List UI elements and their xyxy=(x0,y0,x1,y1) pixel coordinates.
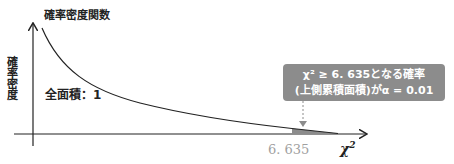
callout-line-1: χ² ≥ 6. 635となる確率 xyxy=(283,67,445,83)
total-area-label: 全面積：1 xyxy=(45,85,101,102)
critical-value-label: 6. 635 xyxy=(268,142,309,157)
x-axis-label-exp: 2 xyxy=(349,140,355,150)
alpha-callout: χ² ≥ 6. 635となる確率 (上側累積面積)がα = 0.01 xyxy=(283,64,445,101)
x-axis-label: χ2 xyxy=(340,140,355,157)
callout-line-2: (上側累積面積)がα = 0.01 xyxy=(283,83,445,99)
chart-title: 確率密度関数 xyxy=(44,6,110,22)
x-axis-label-base: χ xyxy=(340,141,349,157)
y-axis-label: 確率密度 xyxy=(4,56,18,100)
